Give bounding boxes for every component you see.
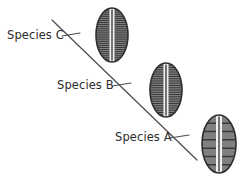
label-species-c: Species C xyxy=(7,30,64,42)
diagram-canvas xyxy=(0,0,242,177)
cell-species-c xyxy=(94,7,130,63)
leader-line-species-b xyxy=(112,83,131,86)
label-species-b: Species B xyxy=(57,80,114,92)
leader-line-species-c xyxy=(62,33,80,36)
cell-species-b xyxy=(148,62,184,118)
species-trend-diagram: Species C Species B Species A xyxy=(0,0,242,177)
cell-specimens xyxy=(94,7,238,174)
cell-species-a xyxy=(200,114,238,174)
label-species-a: Species A xyxy=(115,132,172,144)
